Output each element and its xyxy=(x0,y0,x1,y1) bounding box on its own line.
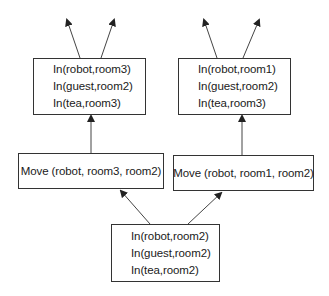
state-fact: In(robot,room1) xyxy=(198,61,276,78)
diagram-canvas: In(robot,room3) In(guest,room2) In(tea,r… xyxy=(0,0,329,296)
state-fact: In(guest,room2) xyxy=(53,78,133,95)
state-node-goal-left: In(robot,room3) In(guest,room2) In(tea,r… xyxy=(33,58,146,115)
edge-initial-to-action-left xyxy=(121,191,150,224)
state-fact: In(tea,room3) xyxy=(53,95,121,112)
edge-goal-right-to-continuation-3 xyxy=(204,20,217,58)
action-node-left: Move (robot, room3, room2) xyxy=(18,153,164,189)
state-fact: In(tea,room2) xyxy=(131,262,199,279)
edge-goal-left-to-continuation-1 xyxy=(67,20,80,58)
edge-goal-left-to-continuation-2 xyxy=(101,20,114,58)
state-fact: In(robot,room2) xyxy=(131,228,209,245)
state-fact: In(guest,room2) xyxy=(131,245,211,262)
state-fact: In(tea,room3) xyxy=(198,95,266,112)
state-node-initial: In(robot,room2) In(guest,room2) In(tea,r… xyxy=(111,224,220,282)
action-label: Move (robot, room3, room2) xyxy=(21,163,162,180)
edge-goal-right-to-continuation-4 xyxy=(243,20,259,58)
edge-initial-to-action-right xyxy=(188,193,221,224)
state-fact: In(robot,room3) xyxy=(53,61,131,78)
action-node-right: Move (robot, room1, room2) xyxy=(173,155,314,191)
state-fact: In(guest,room2) xyxy=(198,78,278,95)
action-label: Move (robot, room1, room2) xyxy=(173,165,314,182)
state-node-goal-right: In(robot,room1) In(guest,room2) In(tea,r… xyxy=(178,58,291,115)
